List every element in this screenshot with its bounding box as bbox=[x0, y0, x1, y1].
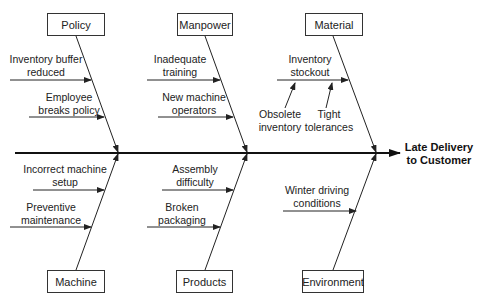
cause-incorrect-machine-setup: Incorrect machinesetup bbox=[22, 163, 108, 189]
category-products: Products bbox=[176, 270, 233, 293]
category-material: Material bbox=[305, 13, 363, 36]
effect-label: Late Delivery to Customer bbox=[403, 141, 475, 167]
effect-line: to Customer bbox=[403, 154, 475, 167]
cause-inadequate-training: Inadequatetraining bbox=[150, 53, 210, 79]
cause-new-machine-operators: New machineoperators bbox=[160, 91, 228, 117]
category-label: Manpower bbox=[179, 19, 230, 31]
category-label: Material bbox=[314, 19, 353, 31]
cause-inventory-buffer-reduced: Inventory bufferreduced bbox=[6, 53, 86, 79]
category-label: Machine bbox=[55, 276, 97, 288]
category-environment: Environment bbox=[302, 270, 364, 293]
cause-preventive-maintenance: Preventivemaintenance bbox=[18, 201, 84, 227]
cause-inventory-stockout: Inventorystockout bbox=[284, 53, 336, 79]
category-policy: Policy bbox=[47, 13, 105, 36]
subcause-tight-tolerances: Tighttolerances bbox=[301, 108, 357, 134]
environment-bone bbox=[333, 154, 376, 270]
cause-broken-packaging: Brokenpackaging bbox=[154, 201, 210, 227]
category-label: Environment bbox=[302, 276, 364, 288]
category-machine: Machine bbox=[47, 270, 105, 293]
material-bone bbox=[333, 36, 376, 152]
effect-line: Late Delivery bbox=[403, 141, 475, 154]
cause-assembly-difficulty: Assemblydifficulty bbox=[168, 163, 222, 189]
cause-winter-driving-conditions: Winter drivingconditions bbox=[281, 184, 353, 210]
category-manpower: Manpower bbox=[177, 13, 233, 36]
category-label: Policy bbox=[61, 19, 90, 31]
cause-employee-breaks-policy: Employeebreaks policy bbox=[33, 91, 105, 117]
category-label: Products bbox=[183, 276, 226, 288]
